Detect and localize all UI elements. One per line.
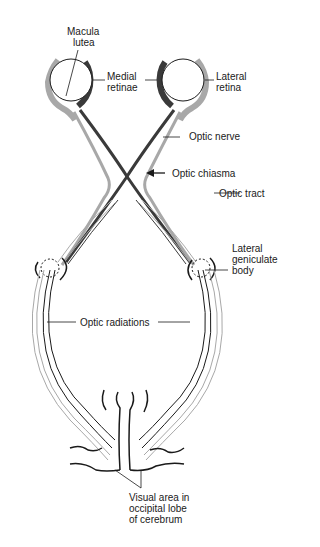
label-line: Lateral xyxy=(232,243,278,254)
left-lateral-geniculate-body xyxy=(35,258,66,280)
right-eye xyxy=(160,59,206,120)
label-optic-radiations: Optic radiations xyxy=(80,317,149,328)
label-line: lutea xyxy=(67,37,99,48)
left-eye xyxy=(48,50,92,120)
label-line: Medial xyxy=(107,71,138,82)
label-line: Macula xyxy=(67,26,99,37)
label-optic-nerve: Optic nerve xyxy=(189,131,240,142)
label-line: of cerebrum xyxy=(129,514,189,525)
label-line: body xyxy=(232,265,278,276)
label-line: occipital lobe xyxy=(129,503,189,514)
label-optic-tract: Optic tract xyxy=(219,188,265,199)
label-visual-area: Visual area in occipital lobe of cerebru… xyxy=(129,492,189,525)
label-line: geniculate xyxy=(232,254,278,265)
label-line: retina xyxy=(216,82,247,93)
label-macula-lutea: Macula lutea xyxy=(67,26,99,48)
label-lateral-geniculate-body: Lateral geniculate body xyxy=(232,243,278,276)
optic-tracts xyxy=(58,200,196,264)
label-optic-chiasma: Optic chiasma xyxy=(172,168,235,179)
label-line: retinae xyxy=(107,82,138,93)
label-line: Lateral xyxy=(216,71,247,82)
label-line: Visual area in xyxy=(129,492,189,503)
label-medial-retinae: Medial retinae xyxy=(107,71,138,93)
optic-radiations xyxy=(32,270,222,460)
label-lateral-retina: Lateral retina xyxy=(216,71,247,93)
